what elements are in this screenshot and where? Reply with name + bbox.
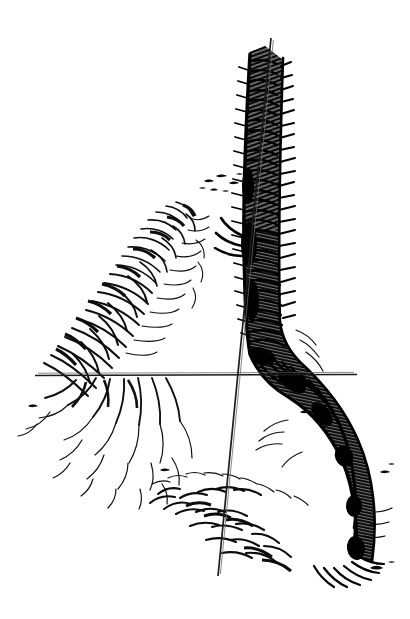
ink-illustration-canvas	[0, 0, 410, 619]
paper-background	[0, 0, 410, 619]
illustration-artboard: Pen-and-ink field illustration of a tree…	[0, 0, 410, 619]
